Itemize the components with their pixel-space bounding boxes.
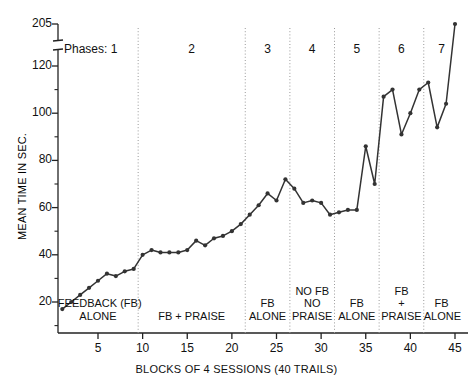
data-point: [390, 88, 394, 92]
phase-label: FEEDBACK (FB)ALONE: [58, 297, 138, 322]
y-tick-label: 20: [18, 294, 52, 308]
phase-label-line: FB + PRAISE: [138, 310, 245, 323]
data-point: [346, 208, 350, 212]
data-point: [382, 95, 386, 99]
phase-label: FBALONE: [424, 297, 460, 322]
y-tick-label: 40: [18, 247, 52, 261]
x-axis-title: BLOCKS OF 4 SESSIONS (40 TRAILS): [0, 363, 473, 375]
data-point: [141, 253, 145, 257]
y-axis-title: MEAN TIME IN SEC.: [16, 133, 28, 240]
x-tick-label: 25: [259, 341, 295, 355]
phase-label: FBALONE: [335, 297, 380, 322]
x-tick-label: 5: [80, 341, 116, 355]
phase-label-line: +: [379, 297, 424, 310]
chart-canvas: [0, 0, 473, 392]
phase-label-line: FB: [335, 297, 380, 310]
x-tick-label: 30: [303, 341, 339, 355]
y-tick-label: 120: [18, 58, 52, 72]
phase-label-line: NO FB: [290, 285, 335, 298]
data-point: [373, 182, 377, 186]
phase-number-label: 7: [422, 42, 462, 56]
data-point: [283, 177, 287, 181]
phase-label: FB + PRAISE: [138, 310, 245, 323]
data-point: [194, 239, 198, 243]
data-point: [328, 213, 332, 217]
data-point: [399, 132, 403, 136]
data-point: [435, 125, 439, 129]
data-point: [167, 250, 171, 254]
data-point: [132, 267, 136, 271]
phase-label-line: ALONE: [424, 310, 460, 323]
phase-label-line: FEEDBACK (FB): [58, 297, 138, 310]
phase-label-line: PRAISE: [290, 310, 335, 323]
x-tick-label: 35: [348, 341, 384, 355]
x-tick-label: 10: [125, 341, 161, 355]
data-point: [158, 250, 162, 254]
phase-label-line: FB: [245, 297, 290, 310]
data-point: [239, 222, 243, 226]
data-point: [319, 201, 323, 205]
phase-label-line: NO: [290, 297, 335, 310]
data-point: [248, 213, 252, 217]
data-point: [292, 187, 296, 191]
data-line: [62, 24, 455, 309]
phase-label: FBALONE: [245, 297, 290, 322]
data-point: [426, 80, 430, 84]
data-point: [203, 243, 207, 247]
y-tick-label: 205: [18, 16, 52, 30]
phase-number-label: 6: [381, 42, 421, 56]
data-point: [230, 229, 234, 233]
data-point: [149, 248, 153, 252]
data-point: [355, 208, 359, 212]
x-tick-label: 40: [392, 341, 428, 355]
x-tick-label: 15: [169, 341, 205, 355]
phase-label-line: ALONE: [335, 310, 380, 323]
data-point: [310, 198, 314, 202]
data-point: [123, 269, 127, 273]
phase-number-label: 4: [292, 42, 332, 56]
phase-number-label: 2: [172, 42, 212, 56]
data-point: [364, 144, 368, 148]
phase-label-line: FB: [424, 297, 460, 310]
data-point: [221, 234, 225, 238]
phase-number-label: 5: [337, 42, 377, 56]
data-point: [453, 22, 457, 26]
data-point: [176, 250, 180, 254]
phase-label: NO FBNOPRAISE: [290, 285, 335, 323]
data-point: [265, 191, 269, 195]
phases-prefix-label: Phases: 1: [64, 42, 117, 56]
data-point: [185, 248, 189, 252]
data-point: [337, 210, 341, 214]
phase-label-line: ALONE: [58, 310, 138, 323]
axis-break-mark-lower: [53, 49, 63, 50]
y-tick-label: 100: [18, 105, 52, 119]
phase-label-line: FB: [379, 285, 424, 298]
data-point: [408, 111, 412, 115]
data-point: [87, 286, 91, 290]
chart-figure: 2040608010012020551015202530354045Phases…: [0, 0, 473, 392]
data-point: [444, 102, 448, 106]
data-point: [114, 274, 118, 278]
data-point: [257, 203, 261, 207]
data-point: [417, 88, 421, 92]
phase-label-line: PRAISE: [379, 310, 424, 323]
phase-label: FB+PRAISE: [379, 285, 424, 323]
x-tick-label: 45: [437, 341, 473, 355]
data-point: [212, 236, 216, 240]
data-point: [105, 272, 109, 276]
data-point: [301, 201, 305, 205]
axis-break-mark-upper: [53, 40, 63, 41]
data-point: [96, 279, 100, 283]
x-tick-label: 20: [214, 341, 250, 355]
data-point: [274, 198, 278, 202]
phase-label-line: ALONE: [245, 310, 290, 323]
phase-number-label: 3: [248, 42, 288, 56]
